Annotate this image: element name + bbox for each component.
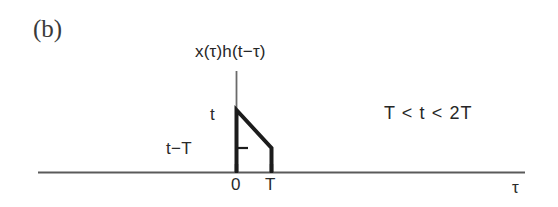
signal-expression-label: x(τ)h(t−τ) — [195, 43, 266, 60]
amplitude-low-label: t−T — [166, 140, 192, 157]
overlap-pulse-outline — [237, 110, 272, 172]
tick-label-origin: 0 — [231, 176, 240, 193]
panel-label: (b) — [33, 16, 62, 41]
amplitude-top-label: t — [210, 106, 215, 123]
condition-inequality-label: T < t < 2T — [384, 104, 473, 122]
tau-axis-name-label: τ — [512, 179, 519, 196]
convolution-figure-panel-b: (b) x(τ)h(t−τ) T < t < 2T t t−T 0 T τ — [0, 0, 558, 207]
figure-drawing — [0, 0, 558, 207]
tick-label-T: T — [265, 176, 275, 193]
